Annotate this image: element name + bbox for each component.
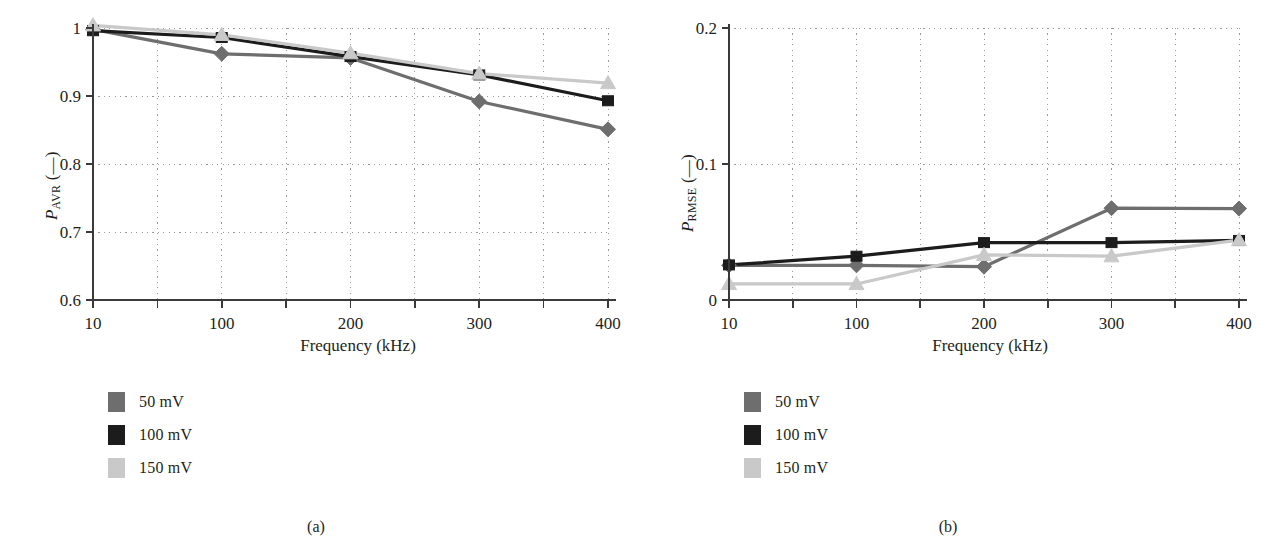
chart-b-plot-area: 00.10.210100200300400 [632,0,1264,370]
chart-a-svg: 0.60.70.80.9110100200300400 [0,0,632,370]
chart-a-ylabel-base: P [42,209,61,220]
legend-item-100mv[interactable]: 100 mV [744,418,828,451]
chart-a-ylabel-sub: AVR [49,185,63,210]
legend-label-50mv: 50 mV [775,393,820,411]
legend-item-50mv[interactable]: 50 mV [744,385,828,418]
legend-swatch-150mv [744,458,761,478]
svg-text:0.6: 0.6 [60,291,81,310]
legend-item-50mv[interactable]: 50 mV [108,385,192,418]
chart-b-y-axis-label: PRMSE (—) [678,154,700,232]
svg-text:100: 100 [844,314,870,333]
chart-a-plot-area: 0.60.70.80.9110100200300400 [0,0,632,370]
chart-b-ylabel-sub: RMSE [685,188,699,222]
svg-text:0.9: 0.9 [60,87,81,106]
subcaption-a: (a) [0,518,632,536]
chart-b-svg: 00.10.210100200300400 [632,0,1264,370]
svg-text:200: 200 [971,314,997,333]
legend-label-100mv: 100 mV [775,426,828,444]
panel-a: 0.60.70.80.9110100200300400 PAVR (—) Fre… [0,0,632,558]
subcaption-b: (b) [632,518,1264,536]
legend-swatch-100mv [108,425,125,445]
chart-b-x-axis-label: Frequency (kHz) [730,336,1250,356]
svg-text:10: 10 [85,314,102,333]
svg-text:400: 400 [595,314,621,333]
chart-a-x-axis-label: Frequency (kHz) [93,336,623,356]
legend-label-100mv: 100 mV [139,426,192,444]
legend-swatch-50mv [108,392,125,412]
svg-text:200: 200 [338,314,364,333]
chart-a-y-axis-label: PAVR (—) [42,151,64,220]
svg-text:10: 10 [721,314,738,333]
svg-text:300: 300 [467,314,493,333]
svg-text:100: 100 [209,314,235,333]
chart-b-legend: 50 mV 100 mV 150 mV [744,385,828,484]
svg-text:0.7: 0.7 [60,223,82,242]
legend-swatch-100mv [744,425,761,445]
chart-a-legend: 50 mV 100 mV 150 mV [108,385,192,484]
panel-b: 00.10.210100200300400 PRMSE (—) Frequenc… [632,0,1264,558]
svg-text:1: 1 [73,19,82,38]
legend-swatch-150mv [108,458,125,478]
svg-text:0.2: 0.2 [696,19,717,38]
svg-text:300: 300 [1099,314,1125,333]
figure-root: 0.60.70.80.9110100200300400 PAVR (—) Fre… [0,0,1265,558]
legend-swatch-50mv [744,392,761,412]
chart-b-ylabel-base: P [678,221,697,232]
legend-item-150mv[interactable]: 150 mV [744,451,828,484]
legend-label-150mv: 150 mV [775,459,828,477]
legend-item-150mv[interactable]: 150 mV [108,451,192,484]
legend-item-100mv[interactable]: 100 mV [108,418,192,451]
svg-text:0: 0 [709,291,718,310]
svg-text:400: 400 [1226,314,1252,333]
chart-b-ylabel-unit: (—) [678,154,697,183]
chart-a-ylabel-unit: (—) [42,151,61,180]
legend-label-150mv: 150 mV [139,459,192,477]
legend-label-50mv: 50 mV [139,393,184,411]
